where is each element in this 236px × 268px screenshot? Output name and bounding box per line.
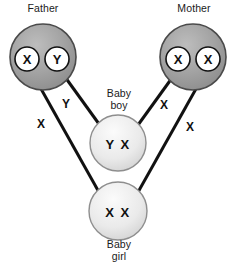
- diagram-canvas: X Y X X Y X X X Y X X X: [0, 0, 236, 268]
- baby-girl-label: Baby girl: [88, 239, 150, 262]
- edge-label-mother-x-girl: X: [186, 120, 194, 134]
- node-baby-boy: Y X: [90, 115, 146, 171]
- edge-label-mother-x-boy: X: [160, 98, 168, 112]
- father-label: Father: [8, 3, 78, 15]
- inheritance-diagram: X Y X X Y X X X Y X X X Fa: [0, 0, 236, 268]
- node-mother: X X: [160, 24, 226, 90]
- edge-label-father-y: Y: [62, 97, 70, 111]
- baby-boy-label: Baby boy: [88, 88, 150, 111]
- father-allele-1-label: X: [23, 52, 32, 67]
- baby-boy-genotype: Y X: [105, 137, 130, 152]
- mother-label: Mother: [158, 3, 230, 15]
- baby-girl-genotype: X X: [105, 205, 130, 220]
- node-baby-girl: X X: [89, 182, 147, 240]
- mother-allele-1-label: X: [174, 52, 183, 67]
- mother-allele-2-label: X: [204, 52, 213, 67]
- father-allele-2-label: Y: [53, 52, 62, 67]
- node-father: X Y: [10, 24, 76, 90]
- edge-label-father-x: X: [37, 117, 45, 131]
